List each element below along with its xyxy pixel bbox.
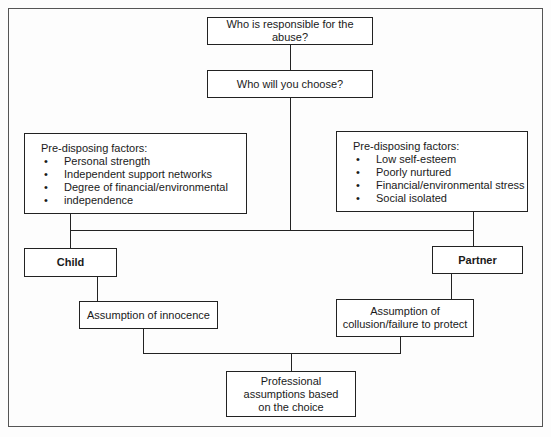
connector-partner-collusion — [451, 273, 452, 299]
node-professional-line3: on the choice — [258, 401, 323, 414]
connector-child-innocence — [97, 276, 98, 301]
connector-horizontal-branch — [70, 230, 474, 231]
child-factor-item: Independent support networks — [41, 168, 246, 181]
connector-professional — [291, 353, 292, 371]
connector-choose-down — [290, 97, 291, 230]
child-factors-title: Pre-disposing factors: — [41, 142, 246, 155]
node-partner-factors: Pre-disposing factors: Low self-esteem P… — [336, 131, 528, 212]
partner-factor-item: Social isolated — [353, 192, 527, 205]
partner-factor-item: Poorly nurtured — [353, 166, 527, 179]
connector-responsible-choose — [290, 44, 291, 70]
connector-child-factors — [70, 213, 71, 248]
node-child-label: Child — [57, 256, 85, 269]
node-choose-label: Who will you choose? — [237, 78, 343, 91]
child-factor-item: independence — [41, 194, 246, 207]
connector-collusion-down — [400, 336, 401, 354]
node-partner-label: Partner — [458, 254, 497, 267]
node-professional-line2: assumptions based — [244, 388, 339, 401]
node-professional: Professional assumptions based on the ch… — [226, 371, 356, 417]
child-factor-item: Degree of financial/environmental — [41, 181, 246, 194]
node-collusion-line2: collusion/failure to protect — [343, 318, 468, 331]
child-factor-item: Personal strength — [41, 155, 246, 168]
node-collusion: Assumption of collusion/failure to prote… — [336, 299, 474, 337]
partner-factor-item: Financial/environmental stress — [353, 179, 527, 192]
node-partner: Partner — [432, 246, 523, 274]
connector-partner-factors — [473, 211, 474, 246]
node-collusion-line1: Assumption of — [370, 305, 440, 318]
node-responsible-label: Who is responsible for the abuse? — [208, 18, 372, 44]
node-innocence-label: Assumption of innocence — [87, 309, 210, 322]
connector-innocence-down — [143, 328, 144, 354]
node-child: Child — [24, 248, 117, 277]
node-innocence: Assumption of innocence — [79, 301, 218, 329]
node-child-factors: Pre-disposing factors: Personal strength… — [24, 133, 247, 214]
node-choose: Who will you choose? — [207, 70, 373, 98]
node-professional-line1: Professional — [261, 375, 322, 388]
child-factors-list: Personal strength Independent support ne… — [41, 155, 246, 207]
partner-factor-item: Low self-esteem — [353, 153, 527, 166]
node-responsible: Who is responsible for the abuse? — [207, 17, 373, 45]
partner-factors-title: Pre-disposing factors: — [353, 140, 527, 153]
partner-factors-list: Low self-esteem Poorly nurtured Financia… — [353, 153, 527, 205]
connector-bottom-merge — [143, 353, 401, 354]
